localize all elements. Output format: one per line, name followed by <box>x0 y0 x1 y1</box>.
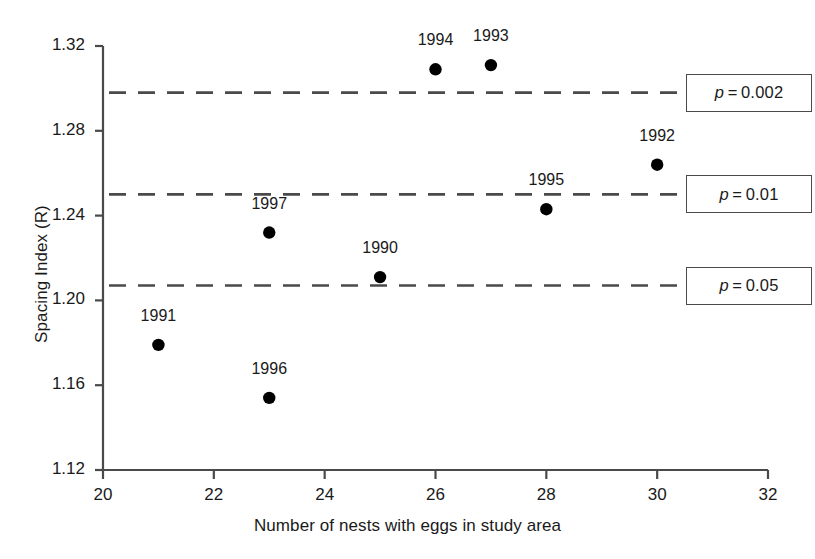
p-value-box-0.05: p = 0.05 <box>686 267 812 305</box>
point-label-1992: 1992 <box>630 127 684 145</box>
x-axis-title: Number of nests with eggs in study area <box>0 516 815 536</box>
x-tick-label: 32 <box>745 485 791 505</box>
p-value-text: = 0.05 <box>729 276 779 295</box>
p-value-box-0.01: p = 0.01 <box>686 175 812 213</box>
x-tick-label: 22 <box>191 485 237 505</box>
scatter-plot-figure: Number of nests with eggs in study area … <box>0 0 815 559</box>
y-tick-label: 1.24 <box>23 205 85 225</box>
x-tick-label: 30 <box>634 485 680 505</box>
data-point-marker <box>429 63 441 75</box>
point-label-1997: 1997 <box>242 195 296 213</box>
data-point-marker <box>152 339 164 351</box>
point-label-1995: 1995 <box>519 171 573 189</box>
point-label-1990: 1990 <box>353 239 407 257</box>
data-point-marker <box>374 271 386 283</box>
point-label-1994: 1994 <box>409 31 463 49</box>
point-label-1993: 1993 <box>464 27 518 45</box>
y-tick-label: 1.16 <box>23 374 85 394</box>
x-tick-label: 26 <box>413 485 459 505</box>
data-point-marker <box>651 159 663 171</box>
p-value-text: = 0.002 <box>724 83 783 102</box>
y-axis-title: Spacing Index (R) <box>32 134 52 414</box>
y-tick-label: 1.12 <box>23 459 85 479</box>
y-tick-label: 1.28 <box>23 120 85 140</box>
data-point-marker <box>540 203 552 215</box>
data-point-marker <box>485 59 497 71</box>
point-label-1996: 1996 <box>242 360 296 378</box>
x-tick-label: 28 <box>523 485 569 505</box>
p-symbol: p <box>719 276 728 295</box>
p-value-box-0.002: p = 0.002 <box>686 74 812 112</box>
p-symbol: p <box>719 185 728 204</box>
p-symbol: p <box>715 83 724 102</box>
data-point-marker <box>263 392 275 404</box>
y-tick-label: 1.20 <box>23 289 85 309</box>
y-tick-label: 1.32 <box>23 35 85 55</box>
data-point-marker <box>263 226 275 238</box>
point-label-1991: 1991 <box>131 307 185 325</box>
x-tick-label: 20 <box>80 485 126 505</box>
x-tick-label: 24 <box>302 485 348 505</box>
p-value-text: = 0.01 <box>729 185 779 204</box>
